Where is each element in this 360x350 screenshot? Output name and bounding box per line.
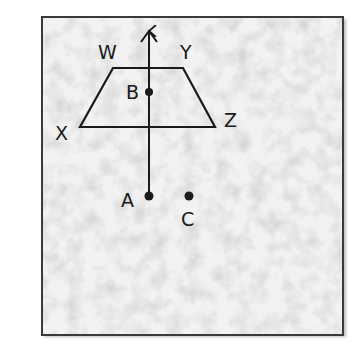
point-c — [185, 192, 194, 201]
marble-texture — [42, 17, 343, 335]
label-b: B — [126, 81, 139, 103]
point-b — [145, 88, 153, 96]
label-c: C — [181, 208, 194, 230]
label-w: W — [98, 41, 117, 63]
point-a — [145, 192, 154, 201]
label-y: Y — [179, 41, 192, 63]
diagram: W Y B X Z A C — [0, 0, 360, 350]
label-x: X — [55, 122, 68, 144]
label-a: A — [121, 189, 134, 211]
label-z: Z — [224, 109, 237, 131]
